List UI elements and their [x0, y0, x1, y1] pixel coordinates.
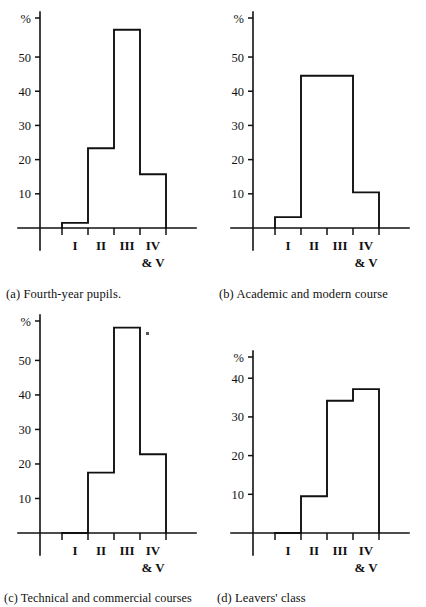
y-axis-unit-label: %: [234, 351, 244, 365]
y-tick-label: 20: [19, 153, 32, 167]
y-tick-label: 40: [232, 372, 245, 386]
print-speck: [146, 332, 149, 335]
x-category-label: II: [309, 238, 319, 253]
x-category-label: II: [96, 238, 106, 253]
y-tick-label: 40: [19, 388, 32, 402]
y-tick-label: 30: [19, 423, 32, 437]
x-category-sublabel: & V: [354, 255, 378, 270]
x-category-label: IV: [359, 543, 374, 558]
x-category-label: II: [96, 543, 106, 558]
y-tick-label: 50: [19, 354, 32, 368]
y-tick-label: 10: [19, 492, 32, 506]
y-tick-label: 30: [232, 410, 245, 424]
y-tick-label: 20: [232, 153, 245, 167]
x-category-label: I: [285, 238, 290, 253]
y-axis-unit-label: %: [21, 12, 31, 26]
histogram-outline: [275, 76, 379, 228]
y-tick-label: 20: [232, 449, 245, 463]
histogram-d: 10203040%IIIIIIIV& V: [213, 303, 426, 585]
x-category-label: III: [332, 238, 347, 253]
histogram-outline: [275, 389, 379, 533]
x-category-label: I: [285, 543, 290, 558]
x-category-label: IV: [146, 543, 161, 558]
x-category-label: III: [119, 543, 134, 558]
y-tick-label: 50: [232, 51, 245, 65]
y-tick-label: 30: [232, 119, 245, 133]
chart-panel-d: 10203040%IIIIIIIV& V (d) Leavers' class: [213, 303, 426, 607]
x-category-label: II: [309, 543, 319, 558]
y-tick-label: 40: [232, 85, 245, 99]
chart-panel-c: 1020304050%IIIIIIIV& V (c) Technical and…: [0, 303, 213, 607]
y-tick-label: 10: [232, 187, 245, 201]
chart-caption-a: (a) Fourth-year pupils.: [6, 287, 121, 301]
x-category-label: IV: [359, 238, 374, 253]
histogram-outline: [62, 328, 166, 533]
figure-panel-grid: 1020304050%IIIIIIIV& V (a) Fourth-year p…: [0, 0, 426, 607]
y-axis-unit-label: %: [234, 12, 244, 26]
y-tick-label: 10: [232, 488, 245, 502]
histogram-b: 1020304050%IIIIIIIV& V: [213, 0, 426, 280]
y-axis-unit-label: %: [21, 315, 31, 329]
y-tick-label: 10: [19, 187, 32, 201]
x-category-sublabel: & V: [141, 560, 165, 575]
y-tick-label: 40: [19, 85, 32, 99]
chart-panel-a: 1020304050%IIIIIIIV& V (a) Fourth-year p…: [0, 0, 213, 303]
x-category-sublabel: & V: [354, 560, 378, 575]
chart-panel-b: 1020304050%IIIIIIIV& V (b) Academic and …: [213, 0, 426, 303]
x-category-label: I: [72, 238, 77, 253]
y-tick-label: 50: [19, 51, 32, 65]
y-tick-label: 20: [19, 457, 32, 471]
x-category-label: IV: [146, 238, 161, 253]
y-tick-label: 30: [19, 119, 32, 133]
x-category-label: III: [119, 238, 134, 253]
x-category-label: III: [332, 543, 347, 558]
histogram-outline: [62, 30, 166, 228]
x-category-sublabel: & V: [141, 255, 165, 270]
histogram-a: 1020304050%IIIIIIIV& V: [0, 0, 213, 280]
histogram-c: 1020304050%IIIIIIIV& V: [0, 303, 213, 585]
chart-caption-c: (c) Technical and commercial courses: [4, 591, 192, 605]
chart-caption-d: (d) Leavers' class: [217, 591, 306, 605]
x-category-label: I: [72, 543, 77, 558]
chart-caption-b: (b) Academic and modern course: [219, 287, 388, 301]
